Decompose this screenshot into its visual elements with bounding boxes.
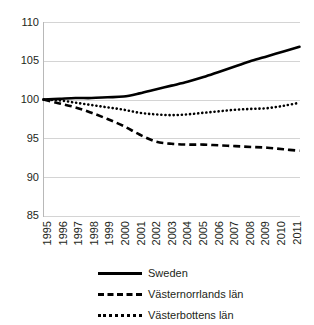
x-tick-label: 2002 — [151, 221, 162, 261]
x-tick-label: 2009 — [260, 221, 271, 261]
x-tick-label: 2006 — [214, 221, 225, 261]
line-chart-figure: 110 105 100 95 90 85 1995 1996 1997 1998… — [0, 0, 314, 325]
legend-swatch-dashed-icon — [98, 288, 142, 300]
x-tick-label: 1995 — [42, 221, 53, 261]
legend-item-sweden: Sweden — [0, 262, 314, 283]
legend-label: Västerbottens län — [148, 309, 234, 321]
legend-item-vasternorrlands-lan: Västernorrlands län — [0, 283, 314, 304]
x-tick-label: 2001 — [136, 221, 147, 261]
legend-swatch-solid-icon — [98, 267, 142, 279]
x-tick-label: 2000 — [120, 221, 131, 261]
x-tick-label: 1999 — [104, 221, 115, 261]
x-tick-label: 2011 — [292, 221, 303, 261]
x-tick-label: 1997 — [73, 221, 84, 261]
legend-swatch-dotted-icon — [98, 309, 142, 321]
chart-legend: Sweden Västernorrlands län Västerbottens… — [0, 262, 314, 325]
x-tick-label: 2008 — [245, 221, 256, 261]
x-tick-label: 2007 — [229, 221, 240, 261]
x-tick-label: 1998 — [89, 221, 100, 261]
legend-label: Västernorrlands län — [148, 288, 243, 300]
legend-label: Sweden — [148, 267, 188, 279]
x-tick-label: 2003 — [167, 221, 178, 261]
x-tick-label: 2010 — [276, 221, 287, 261]
x-tick-label: 2004 — [182, 221, 193, 261]
legend-item-vasterbottens-lan: Västerbottens län — [0, 304, 314, 325]
x-tick-label: 2005 — [198, 221, 209, 261]
x-tick-label: 1996 — [58, 221, 69, 261]
